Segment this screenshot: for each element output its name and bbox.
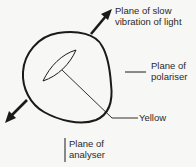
slow-vibration-label-line1: Plane of slow [115,6,182,17]
polariser-label: Plane of polariser [151,61,187,82]
analyser-label-line2: analyser [69,150,105,161]
polariser-label-line1: Plane of [151,61,187,72]
slow-vibration-arrow-sw [5,100,27,123]
slow-vibration-label-line2: vibration of light [115,17,182,28]
analyser-label-line1: Plane of [69,139,105,150]
yellow-label-text: Yellow [139,113,166,124]
slow-vibration-label: Plane of slow vibration of light [115,6,182,27]
yellow-label: Yellow [139,113,166,124]
polariser-label-line2: polariser [151,72,187,83]
analyser-label: Plane of analyser [69,139,105,160]
slow-vibration-arrow-ne [91,9,112,34]
crystal-outline [23,32,112,122]
yellow-leader-line [62,70,138,118]
interference-lens [43,50,76,81]
